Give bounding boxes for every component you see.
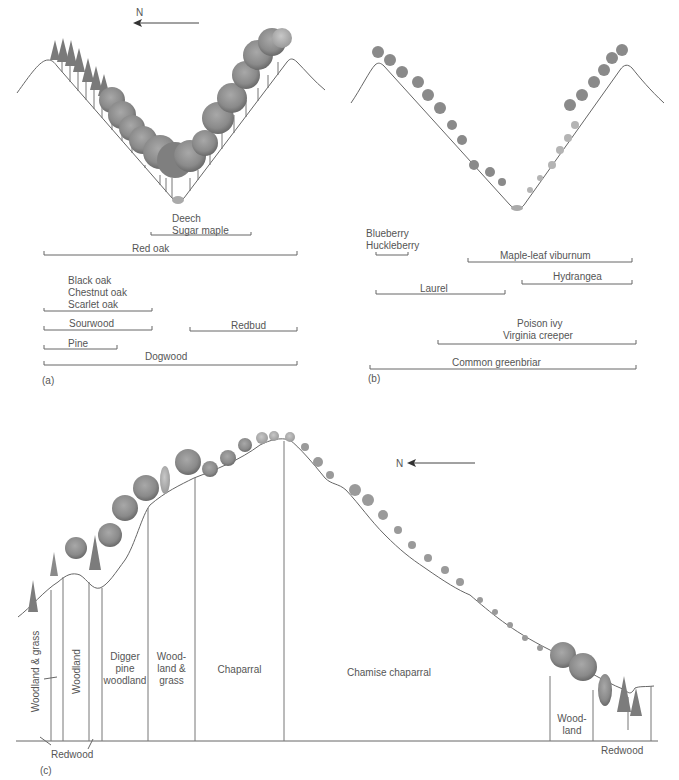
panel-b-brackets (370, 252, 636, 369)
zone-label-woodland-and-grass: Woodland & grass (30, 622, 41, 722)
zone-label-chaparral: Chaparral (195, 664, 284, 676)
panel-b-valley (351, 44, 664, 211)
zone-label-digger-pine-woodland: Digger pine woodland (100, 651, 150, 687)
panel-a-tag: (a) (42, 375, 54, 386)
panel-c-tag: (c) (40, 765, 52, 776)
range-label-pine: Pine (68, 338, 88, 350)
zone-label-woodland: Woodland (71, 642, 82, 702)
range-label-redbud: Redbud (231, 320, 266, 332)
panel-c-profile (16, 431, 658, 749)
panel-b-tag: (b) (368, 373, 380, 384)
range-label-common-greenbriar: Common greenbriar (452, 357, 541, 369)
stream-icon (172, 196, 184, 204)
north-arrow-icon (133, 19, 199, 27)
compass-north-label: N (136, 7, 143, 19)
range-label-red-oak: Red oak (132, 243, 169, 255)
zone-label-chamise-chaparral: Chamise chaparral (347, 667, 431, 679)
shrubs-right (301, 443, 543, 651)
range-label-maple-leaf-viburnum: Maple-leaf viburnum (500, 250, 591, 262)
range-label-huckleberry: Huckleberry (366, 240, 419, 252)
range-label-chestnut-oak: Chestnut oak (68, 287, 127, 299)
trees-left (28, 431, 295, 612)
north-arrow-icon (407, 459, 475, 467)
range-label-poison-ivy: Poison ivy (517, 318, 563, 330)
panel-a-valley (17, 19, 325, 204)
range-label-blueberry: Blueberry (366, 228, 409, 240)
zone-label-redwood-right: Redwood (601, 745, 643, 757)
range-label-laurel: Laurel (420, 283, 448, 295)
compass-north-label: N (396, 458, 403, 470)
range-label-dogwood: Dogwood (145, 351, 187, 363)
range-label-virginia-creeper: Virginia creeper (503, 330, 573, 342)
zone-label-woodland-and-grass-2: Wood- land & grass (148, 651, 195, 687)
range-label-sugar-maple: Sugar maple (172, 225, 229, 237)
forest-canopy (99, 28, 292, 178)
zone-label-redwood-left: Redwood (51, 749, 93, 761)
range-label-black-oak: Black oak (68, 275, 111, 287)
range-label-beech: Deech (172, 213, 201, 225)
range-label-hydrangea: Hydrangea (553, 271, 602, 283)
range-label-scarlet-oak: Scarlet oak (68, 299, 118, 311)
zone-label-woodland-right: Wood- land (551, 713, 593, 737)
trees-right (550, 642, 642, 716)
range-label-sourwood: Sourwood (69, 318, 114, 330)
